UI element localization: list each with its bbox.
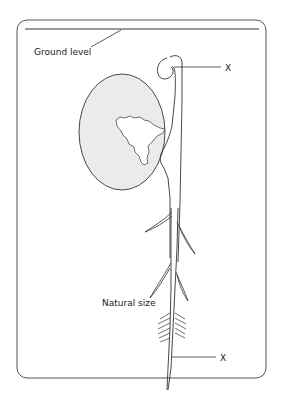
ground-level-pointer bbox=[91, 30, 121, 47]
root-hairs bbox=[158, 313, 186, 342]
ground-level-label: Ground level bbox=[34, 47, 91, 57]
lateral-root bbox=[150, 263, 171, 298]
x-top-label: X bbox=[225, 63, 231, 73]
natural-size-label: Natural size bbox=[102, 298, 156, 308]
radicle bbox=[168, 208, 178, 390]
lateral-root bbox=[176, 272, 188, 301]
x-bottom-label: X bbox=[220, 353, 226, 363]
diagram-frame bbox=[17, 20, 266, 378]
germinating-seed-diagram: Ground level X X Natural size bbox=[0, 0, 283, 399]
lateral-root bbox=[177, 222, 195, 254]
lateral-root bbox=[145, 212, 172, 232]
stem-left-edge bbox=[160, 66, 175, 258]
